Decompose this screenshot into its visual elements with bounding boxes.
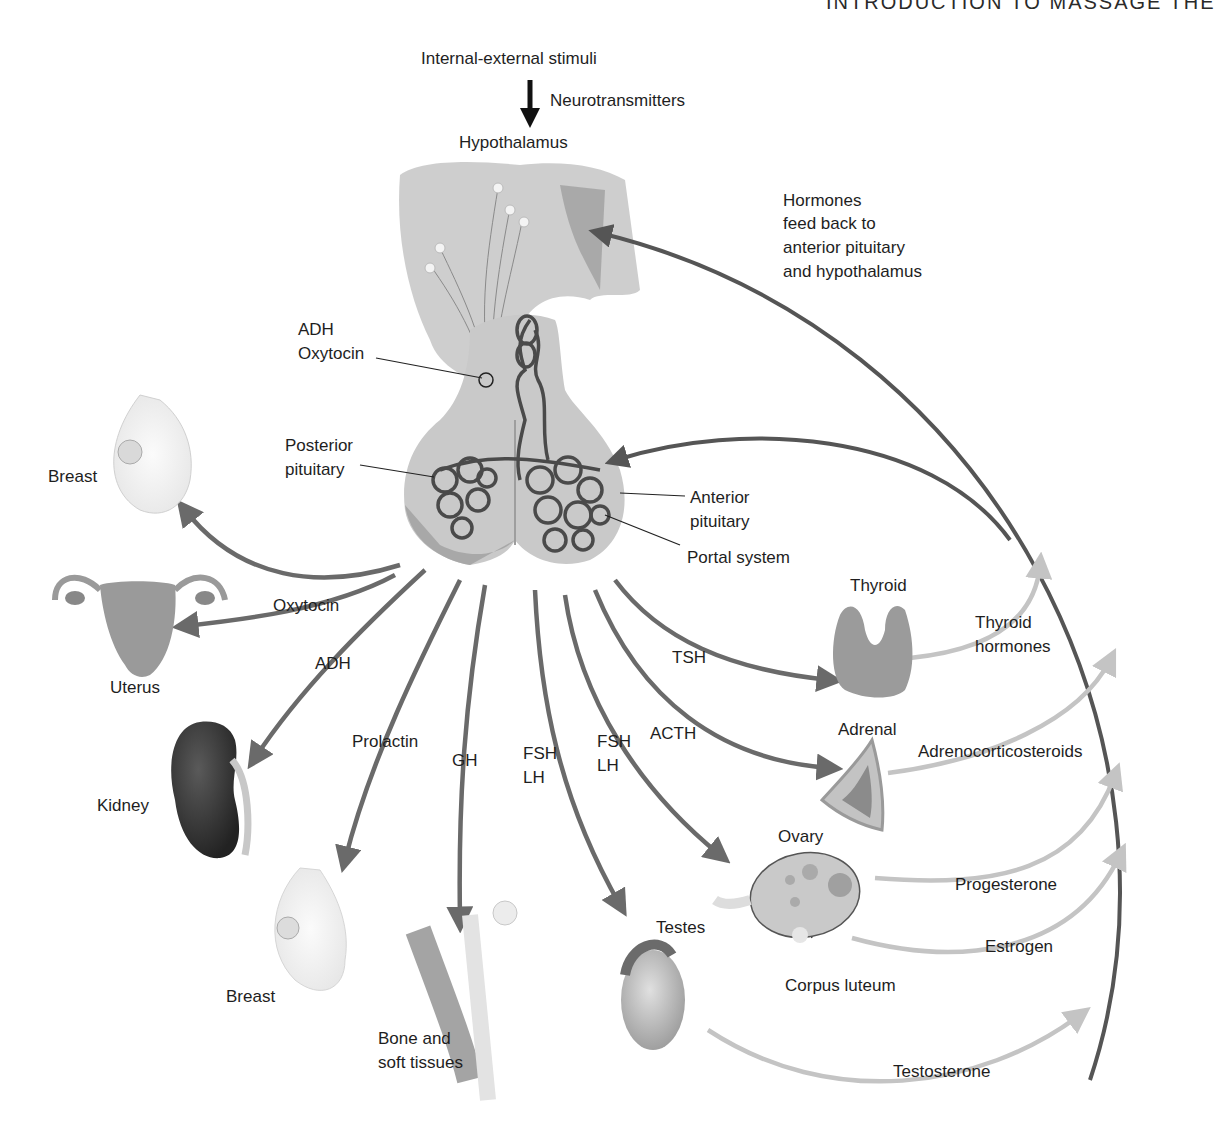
- fsh-label-2: FSH: [597, 731, 631, 752]
- thyroid-label: Thyroid: [850, 575, 907, 596]
- acth-label: ACTH: [650, 723, 696, 744]
- testes-illustration: [621, 945, 685, 1050]
- anterior-pituitary-label-line1: Anterior: [690, 487, 750, 508]
- breast-bottom-illustration: [275, 868, 346, 990]
- uterus-illustration: [55, 578, 225, 677]
- prolactin-arrow: [345, 580, 460, 860]
- uterus-label: Uterus: [110, 677, 160, 698]
- ovary-illustration: [715, 844, 866, 946]
- feedback-label-line2: feed back to: [783, 213, 876, 234]
- posterior-pituitary-label-line1: Posterior: [285, 435, 353, 456]
- bone-label-line1: Bone and: [378, 1028, 451, 1049]
- thyroid-hormones-label-line2: hormones: [975, 636, 1051, 657]
- neurotransmitters-label: Neurotransmitters: [550, 90, 685, 111]
- kidney-label: Kidney: [97, 795, 149, 816]
- feedback-label-line1: Hormones: [783, 190, 861, 211]
- thyroid-illustration: [833, 606, 912, 697]
- breast-top-illustration: [114, 395, 192, 513]
- oxytocin-arrow-breast: [185, 510, 400, 577]
- testosterone-label: Testosterone: [893, 1061, 990, 1082]
- adrenal-label: Adrenal: [838, 719, 897, 740]
- posterior-pituitary-label-line2: pituitary: [285, 459, 345, 480]
- bone-label-line2: soft tissues: [378, 1052, 463, 1073]
- hypothalamus-label: Hypothalamus: [459, 132, 568, 153]
- portal-system-label: Portal system: [687, 547, 790, 568]
- adh-hormone-label: ADH: [315, 653, 351, 674]
- tsh-label: TSH: [672, 647, 706, 668]
- testes-label: Testes: [656, 917, 705, 938]
- oxytocin-posterior-label: Oxytocin: [298, 343, 364, 364]
- breast-bottom-label: Breast: [226, 986, 275, 1007]
- kidney-illustration: [171, 722, 248, 859]
- feedback-arrow-anterior-pituitary: [616, 439, 1010, 540]
- adrenocorticosteroids-label: Adrenocorticosteroids: [918, 741, 1082, 762]
- thyroid-hormones-label-line1: Thyroid: [975, 612, 1032, 633]
- adh-posterior-label: ADH: [298, 319, 334, 340]
- stimuli-label: Internal-external stimuli: [421, 48, 597, 69]
- corpus-luteum-label: Corpus luteum: [785, 975, 896, 996]
- breast-top-label: Breast: [48, 466, 97, 487]
- gh-label: GH: [452, 750, 478, 771]
- feedback-label-line3: anterior pituitary: [783, 237, 905, 258]
- fsh-label-1: FSH: [523, 743, 557, 764]
- lh-label-2: LH: [597, 755, 619, 776]
- tsh-arrow: [615, 580, 830, 680]
- progesterone-label: Progesterone: [955, 874, 1057, 895]
- anterior-pituitary-label-line2: pituitary: [690, 511, 750, 532]
- ovary-label: Ovary: [778, 826, 823, 847]
- lh-label-1: LH: [523, 767, 545, 788]
- prolactin-label: Prolactin: [352, 731, 418, 752]
- feedback-label-line4: and hypothalamus: [783, 261, 922, 282]
- estrogen-label: Estrogen: [985, 936, 1053, 957]
- progesterone-arrow: [875, 775, 1115, 880]
- adrenal-illustration: [822, 740, 883, 830]
- oxytocin-hormone-label: Oxytocin: [273, 595, 339, 616]
